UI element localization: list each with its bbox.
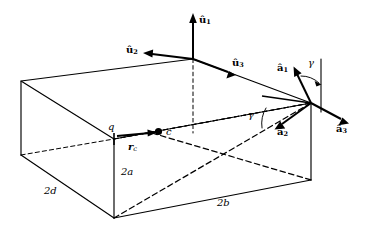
- a3-vector-shaft: [311, 103, 341, 119]
- box-edge-bottom-left-slant: [21, 155, 114, 218]
- box-interior-diagonals: [114, 59, 311, 218]
- label-corner-q: q: [108, 122, 114, 132]
- label-rc-subscript: c: [133, 145, 137, 153]
- u1-arrowhead: [189, 13, 197, 23]
- label-u1: û1: [199, 15, 211, 26]
- label-rc: rc: [128, 142, 137, 153]
- box-edge-bottom-front: [114, 180, 311, 218]
- label-u2: û2: [126, 45, 138, 56]
- u2-vector-shaft: [152, 54, 193, 59]
- label-gamma-lower: γ: [248, 110, 254, 120]
- label-dimension-height: 2a: [121, 167, 133, 177]
- label-dimension-depth: 2d: [44, 186, 57, 196]
- label-a1-subscript: 1: [283, 66, 288, 74]
- label-center-c: c: [166, 127, 172, 137]
- box-solid-edges: [21, 59, 311, 218]
- diagram-canvas: [0, 0, 365, 235]
- label-gamma-upper: γ: [308, 58, 314, 68]
- label-u1-subscript: 1: [206, 18, 211, 26]
- u3-vector-shaft: [193, 59, 228, 72]
- diagonal-dashed-rising: [114, 103, 311, 218]
- diagonal-dashed-falling: [152, 133, 311, 180]
- angle-arcs: [262, 76, 322, 128]
- label-a3-subscript: 3: [342, 127, 347, 135]
- label-a2: â2: [277, 127, 288, 138]
- rc-vector-group: [114, 128, 162, 145]
- vector-diagram-figure: û1 û2 û3 â1 â2 â3 γ γ q c rc 2d 2a 2b: [0, 0, 365, 235]
- label-u3: û3: [232, 58, 244, 69]
- a-triad-ray-left: [262, 96, 311, 103]
- hidden-edge-back-bottom-left: [21, 139, 114, 155]
- center-of-mass-dot: [155, 128, 162, 135]
- label-u3-subscript: 3: [239, 61, 244, 69]
- a-vector-triad: [262, 59, 349, 130]
- label-dimension-width: 2b: [217, 198, 230, 208]
- u2-arrowhead: [143, 50, 153, 58]
- label-a3: â3: [336, 124, 347, 135]
- label-a2-subscript: 2: [283, 130, 288, 138]
- label-a1: â1: [277, 63, 288, 74]
- label-u2-subscript: 2: [133, 48, 138, 56]
- u-vector-triad: [143, 13, 236, 78]
